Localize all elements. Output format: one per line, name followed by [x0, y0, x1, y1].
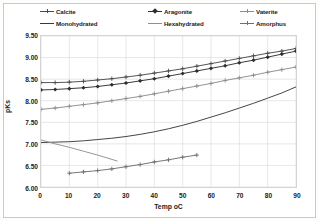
data-point-marker	[152, 77, 156, 81]
legend-label: Calcite	[56, 8, 76, 15]
data-point-marker	[95, 168, 99, 172]
data-point-marker	[223, 64, 227, 68]
y-axis-tick: 8.50	[4, 75, 38, 82]
data-point-marker	[53, 87, 57, 91]
x-axis-tick: 50	[171, 192, 195, 199]
x-axis-tick: 80	[256, 192, 280, 199]
legend-label: Amorphus	[256, 20, 286, 27]
x-axis-tick: 70	[228, 192, 252, 199]
data-point-marker	[251, 58, 255, 62]
data-point-marker	[110, 77, 114, 81]
chart-legend: CalciteAragoniteVateriteMonohydratedHexa…	[40, 6, 308, 30]
legend-item-vaterite[interactable]: Vaterite	[240, 6, 278, 16]
data-point-marker	[166, 74, 170, 78]
data-point-marker	[266, 55, 270, 59]
gridlines	[41, 36, 296, 187]
legend-item-calcite[interactable]: Calcite	[40, 6, 76, 16]
data-point-marker	[138, 162, 142, 166]
data-point-marker	[67, 87, 71, 91]
data-point-marker	[265, 51, 269, 55]
legend-plus-marker-icon	[247, 21, 248, 25]
chart-container: CalciteAragoniteVateriteMonohydratedHexa…	[0, 0, 319, 221]
series-line	[41, 87, 296, 143]
legend-key-icon	[40, 19, 54, 28]
data-point-marker	[209, 81, 213, 85]
data-point-marker	[180, 155, 184, 159]
legend-key-icon	[148, 19, 162, 28]
legend-item-hexahydrated[interactable]: Hexahydrated	[148, 18, 204, 28]
data-point-marker	[209, 66, 213, 70]
legend-plus-marker-icon	[47, 9, 48, 13]
data-point-marker	[195, 153, 199, 157]
data-point-marker	[81, 86, 85, 90]
data-point-marker	[195, 64, 199, 68]
data-point-marker	[110, 83, 114, 87]
data-point-marker	[294, 65, 296, 69]
data-point-marker	[181, 71, 185, 75]
legend-plus-marker-icon	[247, 9, 248, 13]
data-point-marker	[95, 78, 99, 82]
legend-label: Vaterite	[256, 8, 278, 15]
legend-item-monohydrated[interactable]: Monohydrated	[40, 18, 97, 28]
series-monohydrated	[41, 87, 296, 143]
data-point-marker	[180, 86, 184, 90]
y-axis-tick: 9.50	[4, 32, 38, 39]
x-axis-tick: 30	[114, 192, 138, 199]
data-point-marker	[53, 80, 57, 84]
x-axis-tick: 40	[142, 192, 166, 199]
data-point-marker	[166, 89, 170, 93]
data-point-marker	[124, 96, 128, 100]
data-point-marker	[152, 160, 156, 164]
data-point-marker	[124, 81, 128, 85]
data-point-marker	[237, 56, 241, 60]
y-axis-tick: 9.00	[4, 53, 38, 60]
x-axis-tick: 20	[85, 192, 109, 199]
data-point-marker	[96, 84, 100, 88]
data-point-marker	[209, 61, 213, 65]
y-axis-title: pKs	[4, 87, 11, 127]
legend-key-icon	[40, 7, 54, 16]
data-point-marker	[95, 101, 99, 105]
x-axis-tick: 0	[28, 192, 52, 199]
data-point-marker	[166, 158, 170, 162]
data-point-marker	[41, 107, 43, 111]
data-point-marker	[251, 73, 255, 77]
x-axis-tick: 60	[199, 192, 223, 199]
x-axis-title: Temp oC	[40, 203, 297, 210]
data-point-marker	[81, 102, 85, 106]
series-amorphus	[67, 153, 199, 175]
legend-diamond-marker-icon	[152, 8, 158, 14]
data-point-marker	[124, 75, 128, 79]
plot-svg	[41, 36, 296, 187]
y-axis-tick: 6.00	[4, 185, 38, 192]
legend-key-icon	[240, 19, 254, 28]
data-point-marker	[180, 67, 184, 71]
legend-line-swatch	[40, 23, 54, 24]
data-point-marker	[195, 69, 199, 73]
series-line	[41, 140, 118, 161]
legend-label: Aragonite	[164, 8, 192, 15]
data-point-marker	[67, 171, 71, 175]
plot-area	[40, 35, 297, 188]
data-point-marker	[81, 170, 85, 174]
legend-key-icon	[148, 7, 162, 16]
data-point-marker	[223, 59, 227, 63]
data-point-marker	[110, 167, 114, 171]
data-point-marker	[41, 80, 43, 84]
data-point-marker	[280, 52, 284, 56]
data-point-marker	[265, 70, 269, 74]
data-point-marker	[294, 49, 296, 53]
data-point-marker	[152, 71, 156, 75]
data-point-marker	[67, 104, 71, 108]
series-line	[69, 155, 197, 173]
y-axis-tick: 6.50	[4, 163, 38, 170]
legend-item-aragonite[interactable]: Aragonite	[148, 6, 192, 16]
data-point-marker	[53, 106, 57, 110]
y-axis-tick: 7.00	[4, 141, 38, 148]
legend-item-amorphus[interactable]: Amorphus	[240, 18, 286, 28]
data-point-marker	[138, 94, 142, 98]
data-point-marker	[195, 84, 199, 88]
legend-key-icon	[240, 7, 254, 16]
x-axis-tick: 10	[57, 192, 81, 199]
series-hexahydrated	[41, 140, 118, 161]
